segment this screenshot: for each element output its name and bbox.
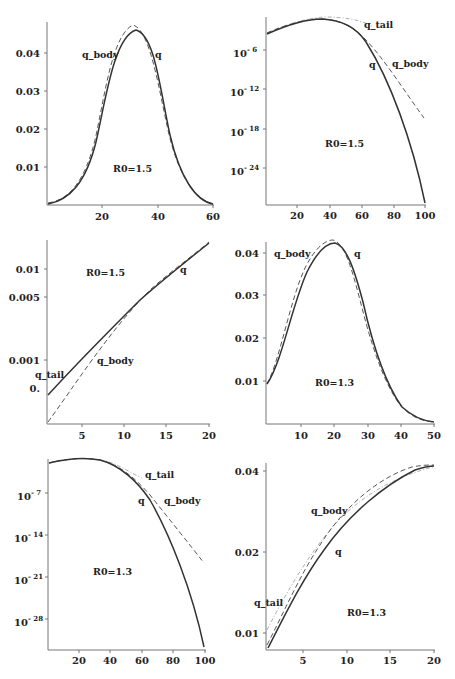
panel-4: 0.04 0.03 0.02 0.01 10 20 30 40 50 q_bod… [235,240,441,441]
x-tick-label: 100 [195,655,216,666]
y-tick-label: 10- 14 [14,530,43,544]
series-q [268,466,434,648]
x-tick-label: 20 [72,655,86,666]
y-tick-label: 10- 28 [14,614,43,628]
x-tick-label: 10 [340,655,354,666]
x-ticks: 5 10 15 20 [79,424,216,441]
panel-2: 10- 6 10- 12 10- 18 10- 24 20 40 60 80 1… [230,17,435,221]
label-q: q [155,49,162,60]
series-q [49,459,204,647]
label-q-tail: q_tail [254,597,284,608]
label-q: q [369,59,376,70]
x-ticks: 20 40 60 [95,205,220,222]
x-tick-label: 5 [79,430,86,441]
x-tick-label: 40 [323,210,337,221]
y-tick-label: 0.01 [235,376,259,387]
panel-6: 0.04 0.02 0.01 5 10 15 20 q_body q q_tai… [235,463,441,666]
label-q-body: q_body [311,505,348,516]
y-tick-label: 0.02 [235,547,259,558]
y-tick-label: 10- 18 [230,124,259,138]
x-tick-label: 20 [290,210,304,221]
series-q-body [267,465,434,645]
x-tick-label: 60 [355,210,369,221]
y-tick-label: 0.03 [235,290,259,301]
y-tick-label: 0. [30,383,40,394]
panel-3: 0.01 0.005 0.001 0. 5 10 15 20 R0=1.5 q … [9,240,216,441]
series-q-body [48,25,213,204]
label-q-body: q_body [392,58,429,69]
label-q-body: q_body [82,49,119,60]
y-tick-label: 10- 7 [17,488,41,502]
label-q-body: q_body [274,248,311,259]
y-tick-label: 0.01 [235,628,259,639]
x-tick-label: 60 [206,211,220,222]
y-ticks: 10- 6 10- 12 10- 18 10- 24 [230,45,266,177]
series-q [267,243,434,422]
y-tick-label: 0.001 [9,355,40,366]
x-ticks: 20 40 60 80 100 [72,650,215,666]
series-q-tail [267,467,433,630]
x-tick-label: 80 [166,655,180,666]
y-tick-label: 10- 21 [14,572,43,586]
x-tick-label: 50 [427,430,441,441]
x-tick-label: 10 [294,430,308,441]
y-ticks: 0.04 0.02 0.01 [235,466,266,639]
x-tick-label: 10 [117,430,131,441]
label-q: q [180,264,187,275]
y-tick-label: 10- 6 [233,45,257,59]
r0-annotation: R0=1.3 [347,607,386,618]
r0-annotation: R0=1.3 [315,377,354,388]
y-tick-label: 0.005 [9,292,40,303]
r0-annotation: R0=1.3 [93,566,132,577]
y-ticks: 0.04 0.03 0.02 0.01 [235,248,266,387]
label-q-tail: q_tail [364,19,394,30]
x-tick-label: 30 [361,430,375,441]
figure-caption [8,668,448,679]
label-q: q [354,248,361,259]
label-q-body: q_body [97,355,134,366]
y-tick-label: 0.02 [16,124,40,135]
y-ticks: 10- 7 10- 14 10- 21 10- 28 [14,488,48,628]
label-q-tail: q_tail [35,369,65,380]
series-q-body [267,240,434,422]
y-tick-label: 0.04 [235,248,259,259]
y-tick-label: 0.04 [235,466,259,477]
y-ticks: 0.04 0.03 0.02 0.01 [16,48,47,173]
label-q: q [138,495,145,506]
r0-annotation: R0=1.5 [113,163,152,174]
y-tick-label: 0.04 [16,48,40,59]
x-tick-label: 100 [415,210,436,221]
x-tick-label: 40 [394,430,408,441]
x-tick-label: 20 [427,655,441,666]
x-ticks: 20 40 60 80 100 [290,205,435,221]
figure-canvas: 0.04 0.03 0.02 0.01 20 40 60 q_body q R0… [0,0,455,679]
label-q: q [335,546,342,557]
series-q [267,19,425,203]
x-tick-label: 40 [151,211,165,222]
y-tick-label: 0.03 [16,86,40,97]
x-ticks: 10 20 30 40 50 [294,424,441,441]
panel-5: 10- 7 10- 14 10- 21 10- 28 20 40 60 80 1… [14,459,215,666]
x-tick-label: 80 [387,210,401,221]
y-tick-label: 10- 24 [230,163,259,177]
x-tick-label: 60 [135,655,149,666]
label-q-tail: q_tail [145,469,175,480]
x-tick-label: 15 [159,430,173,441]
y-tick-label: 0.01 [16,264,40,275]
x-ticks: 5 10 15 20 [300,650,441,666]
x-tick-label: 5 [300,655,307,666]
label-q-body: q_body [164,495,201,506]
r0-annotation: R0=1.5 [325,138,364,149]
y-tick-label: 10- 12 [230,84,259,98]
x-tick-label: 20 [327,430,341,441]
y-tick-label: 0.01 [16,162,40,173]
panel-1: 0.04 0.03 0.02 0.01 20 40 60 q_body q R0… [16,22,220,222]
series-q [48,30,213,204]
x-tick-label: 20 [202,430,216,441]
y-tick-label: 0.02 [235,333,259,344]
r0-annotation: R0=1.5 [86,267,125,278]
x-tick-label: 40 [103,655,117,666]
x-tick-label: 20 [95,211,109,222]
x-tick-label: 15 [383,655,397,666]
